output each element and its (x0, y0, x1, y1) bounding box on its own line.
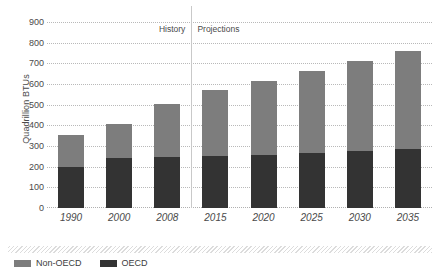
legend-swatch-oecd (100, 260, 117, 267)
bar-segment-non-oecd-2030[interactable] (347, 61, 373, 151)
bar-slot-2035 (384, 22, 432, 208)
history-label: History (159, 24, 185, 34)
y-axis-tick-900: 900 (14, 17, 44, 27)
bar-segment-oecd-2008[interactable] (154, 157, 180, 208)
bar-stack-2020[interactable] (251, 81, 277, 208)
bar-slot-2008 (143, 22, 191, 208)
bar-segment-non-oecd-1990[interactable] (58, 135, 84, 167)
bar-segment-oecd-2025[interactable] (299, 153, 325, 208)
y-axis-tick-100: 100 (14, 182, 44, 192)
bar-segment-non-oecd-2008[interactable] (154, 104, 180, 158)
hatched-divider-band (8, 246, 432, 253)
bar-slot-2015 (191, 22, 239, 208)
bar-segment-oecd-2015[interactable] (202, 156, 228, 208)
y-axis-tick-0: 0 (14, 203, 44, 213)
bar-stack-2015[interactable] (202, 90, 228, 208)
bar-segment-non-oecd-2000[interactable] (106, 124, 132, 158)
bar-segment-non-oecd-2015[interactable] (202, 90, 228, 156)
history-projections-divider (191, 6, 192, 208)
bar-stack-2000[interactable] (106, 124, 132, 208)
legend-item-non-oecd[interactable]: Non-OECD (14, 258, 82, 268)
legend-label-non-oecd: Non-OECD (36, 258, 82, 268)
bar-slot-2030 (336, 22, 384, 208)
legend-swatch-non-oecd (14, 260, 31, 267)
bar-stack-2035[interactable] (395, 51, 421, 208)
x-axis-tick-2008: 2008 (143, 212, 191, 232)
projections-label: Projections (197, 24, 239, 34)
y-axis-tick-500: 500 (14, 100, 44, 110)
y-axis-tick-labels: 9008007006005004003002001000 (14, 0, 44, 240)
x-axis-tick-2030: 2030 (336, 212, 384, 232)
bar-segment-oecd-2000[interactable] (106, 158, 132, 208)
x-axis-tick-2025: 2025 (288, 212, 336, 232)
x-axis-tick-2020: 2020 (240, 212, 288, 232)
bar-segment-oecd-2020[interactable] (251, 155, 277, 208)
y-axis-tick-700: 700 (14, 58, 44, 68)
bar-slot-2000 (95, 22, 143, 208)
bar-slot-2020 (240, 22, 288, 208)
bar-stack-2025[interactable] (299, 71, 325, 208)
y-axis-tick-400: 400 (14, 120, 44, 130)
bar-segment-oecd-2030[interactable] (347, 151, 373, 208)
x-axis-tick-2015: 2015 (191, 212, 239, 232)
bar-stack-2008[interactable] (154, 104, 180, 208)
bar-slot-2025 (288, 22, 336, 208)
bar-slot-1990 (47, 22, 95, 208)
x-axis-tick-2035: 2035 (384, 212, 432, 232)
bar-series-group (47, 22, 432, 208)
x-axis-tick-2000: 2000 (95, 212, 143, 232)
bar-stack-2030[interactable] (347, 61, 373, 208)
bar-segment-non-oecd-2035[interactable] (395, 51, 421, 149)
bar-segment-non-oecd-2020[interactable] (251, 81, 277, 155)
bar-segment-non-oecd-2025[interactable] (299, 71, 325, 154)
bar-segment-oecd-1990[interactable] (58, 167, 84, 208)
y-axis-tick-600: 600 (14, 79, 44, 89)
x-axis-tick-labels: 19902000200820152020202520302035 (47, 212, 432, 232)
chart-legend: Non-OECDOECD (14, 258, 148, 268)
chart-container: Quadrillion BTUs 90080070060050040030020… (0, 0, 440, 271)
y-axis-tick-800: 800 (14, 38, 44, 48)
legend-item-oecd[interactable]: OECD (100, 258, 148, 268)
x-axis-tick-1990: 1990 (47, 212, 95, 232)
legend-label-oecd: OECD (122, 258, 148, 268)
plot-area: History Projections (47, 22, 432, 208)
y-axis-tick-300: 300 (14, 141, 44, 151)
bar-stack-1990[interactable] (58, 135, 84, 208)
y-axis-tick-200: 200 (14, 162, 44, 172)
bar-segment-oecd-2035[interactable] (395, 149, 421, 208)
